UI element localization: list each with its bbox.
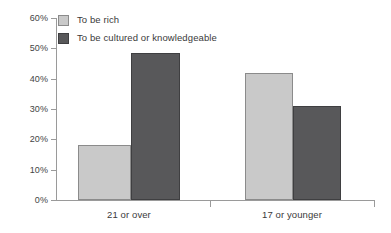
y-axis-label-20-wrap: 20% (0, 135, 48, 144)
bar-21-or-over-to-be-rich[interactable] (78, 145, 131, 200)
legend-swatch-rich-icon (58, 15, 69, 26)
x-axis-category-label-21-or-over: 21 or over (78, 209, 180, 220)
x-axis-line (56, 200, 375, 201)
x-axis-end-tick (374, 201, 375, 207)
legend-label-to-be-cultured: To be cultured or knowledgeable (77, 32, 217, 44)
y-axis-label-0-wrap: 0% (0, 196, 48, 205)
bar-17-or-younger-to-be-cultured[interactable] (293, 106, 341, 200)
y-axis-label-10: 10% (2, 166, 48, 175)
y-axis-label-50: 50% (2, 44, 48, 53)
bar-17-or-younger-to-be-rich[interactable] (245, 73, 293, 200)
y-axis-label-60-wrap: 60% (0, 14, 48, 23)
y-axis-label-40-wrap: 40% (0, 75, 48, 84)
x-axis-separator-tick (210, 201, 211, 207)
y-axis-label-30-wrap: 30% (0, 105, 48, 114)
legend-swatch-cultured-icon (58, 33, 69, 44)
y-axis-label-20: 20% (2, 135, 48, 144)
y-axis-label-60: 60% (2, 14, 48, 23)
y-axis-label-0: 0% (2, 196, 48, 205)
legend-label-to-be-rich: To be rich (77, 14, 119, 26)
bar-chart: 60% 50% 40% 30% 20% 10% 0% 21 or over (0, 0, 391, 233)
x-axis-category-label-17-or-younger: 17 or younger (240, 209, 344, 220)
y-axis-label-50-wrap: 50% (0, 44, 48, 53)
y-axis-label-40: 40% (2, 75, 48, 84)
y-axis-label-30: 30% (2, 105, 48, 114)
bar-21-or-over-to-be-cultured[interactable] (131, 53, 180, 200)
plot-area (56, 18, 375, 200)
y-axis-label-10-wrap: 10% (0, 166, 48, 175)
